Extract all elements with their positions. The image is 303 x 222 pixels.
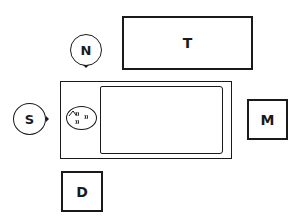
patient-head-icon bbox=[66, 106, 97, 130]
position-s-pointer-icon bbox=[46, 116, 49, 122]
patient-drape bbox=[100, 86, 223, 154]
table-t-label: T bbox=[183, 35, 193, 51]
position-n-marker: N bbox=[70, 34, 102, 66]
position-s-label: S bbox=[25, 112, 34, 127]
table-d-label: D bbox=[76, 184, 88, 200]
face-features-icon bbox=[67, 107, 95, 129]
position-n-label: N bbox=[81, 43, 92, 58]
position-s-marker: S bbox=[13, 103, 46, 135]
position-n-pointer-icon bbox=[83, 65, 89, 68]
table-t: T bbox=[122, 16, 253, 70]
table-m: M bbox=[247, 99, 288, 140]
table-d: D bbox=[61, 171, 103, 212]
table-m-label: M bbox=[261, 112, 275, 128]
